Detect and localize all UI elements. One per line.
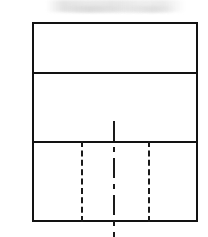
hidden-line-right [148,141,150,222]
drawing-canvas [0,0,208,237]
scan-smudge-top-secondary [60,6,176,13]
divider-upper [32,72,198,74]
scan-smudge-top [46,0,186,12]
center-line [112,121,116,237]
hidden-line-left [81,141,83,222]
